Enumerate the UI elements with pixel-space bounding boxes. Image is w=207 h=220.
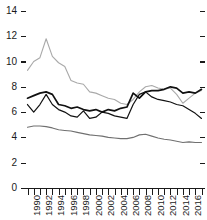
axis-layer [21,11,206,194]
y-tick-label-12: 12 [1,31,17,41]
x-tick-label-2014: 2014 [181,195,191,216]
series-layer [28,39,202,143]
x-tick-label-1996: 1996 [69,195,79,216]
x-tick-label-1994: 1994 [56,195,66,216]
x-tick-label-1992: 1992 [44,195,54,216]
x-tick-label-2018: 2018 [206,195,207,216]
y-tick-label-10: 10 [1,57,17,67]
x-tick-label-2012: 2012 [168,195,178,216]
y-tick-label-4: 4 [1,132,17,142]
x-tick-label-2008: 2008 [143,195,153,216]
x-tick-label-2002: 2002 [106,195,116,216]
x-tick-label-2004: 2004 [119,195,129,216]
x-tick-label-2000: 2000 [94,195,104,216]
chart-container: 02468101214 1990199219941996199820002002… [0,0,206,220]
y-tick-label-2: 2 [1,158,17,168]
data-series-3-series-gray-lower [28,126,202,142]
x-tick-label-1990: 1990 [32,195,42,216]
x-tick-label-2010: 2010 [156,195,166,216]
y-tick-label-0: 0 [1,183,17,193]
y-tick-label-14: 14 [1,6,17,16]
data-series-0-series-light-gray-upper [28,39,202,105]
y-tick-label-6: 6 [1,107,17,117]
x-tick-label-1998: 1998 [81,195,91,216]
x-tick-label-2006: 2006 [131,195,141,216]
y-tick-label-8: 8 [1,82,17,92]
line-chart-plot [0,0,206,220]
x-tick-label-2016: 2016 [193,195,203,216]
